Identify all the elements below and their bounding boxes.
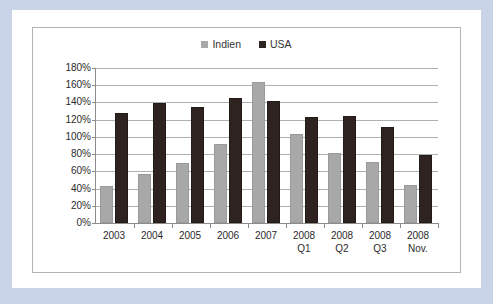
bar-usa: [305, 117, 318, 223]
bar-group: [400, 68, 438, 223]
y-axis-tick-label: 180%: [65, 63, 91, 73]
y-axis-tick-label: 60%: [71, 166, 91, 176]
bar-group: [324, 68, 362, 223]
chart-frame: Indien USA 0%20%40%60%80%100%120%140%160…: [32, 27, 461, 273]
plot-wrapper: 0%20%40%60%80%100%120%140%160%180% 20032…: [33, 28, 462, 274]
y-axis-tick-label: 80%: [71, 149, 91, 159]
x-axis-category-label: 2004: [133, 229, 171, 242]
y-axis-tick-label: 20%: [71, 201, 91, 211]
x-axis-tick-mark: [172, 223, 173, 228]
bar-indien: [214, 144, 227, 223]
page-background: Indien USA 0%20%40%60%80%100%120%140%160…: [0, 0, 493, 304]
bar-usa: [153, 103, 166, 223]
bar-group: [362, 68, 400, 223]
bar-indien: [252, 82, 265, 223]
x-axis-category-label: 2008 Nov.: [399, 229, 437, 255]
bar-usa: [343, 116, 356, 223]
page-surface: Indien USA 0%20%40%60%80%100%120%140%160…: [12, 10, 481, 288]
y-axis-tick-mark: [92, 223, 96, 224]
x-axis-tick-mark: [210, 223, 211, 228]
bar-group: [96, 68, 134, 223]
y-axis-tick-labels: 0%20%40%60%80%100%120%140%160%180%: [49, 68, 91, 223]
bar-group: [172, 68, 210, 223]
x-axis-tick-mark: [400, 223, 401, 228]
bar-usa: [267, 101, 280, 223]
x-axis-tick-mark: [324, 223, 325, 228]
x-axis-category-label: 2008 Q2: [323, 229, 361, 255]
x-axis-category-label: 2003: [95, 229, 133, 242]
bar-group: [248, 68, 286, 223]
y-axis-tick-label: 140%: [65, 97, 91, 107]
bar-indien: [404, 185, 417, 223]
x-axis-category-label: 2005: [171, 229, 209, 242]
bar-usa: [419, 155, 432, 223]
y-axis-tick-label: 100%: [65, 132, 91, 142]
bar-group: [134, 68, 172, 223]
bar-indien: [100, 186, 113, 223]
bar-indien: [290, 134, 303, 223]
plot-area: [95, 68, 438, 224]
bar-indien: [176, 163, 189, 223]
bar-indien: [328, 153, 341, 223]
x-axis-category-label: 2006: [209, 229, 247, 242]
y-axis-tick-label: 0%: [77, 218, 91, 228]
x-axis-tick-mark: [286, 223, 287, 228]
bar-group: [286, 68, 324, 223]
y-axis-tick-label: 40%: [71, 184, 91, 194]
x-axis-category-label: 2008 Q1: [285, 229, 323, 255]
x-axis-tick-mark: [134, 223, 135, 228]
bar-group: [210, 68, 248, 223]
y-axis-tick-label: 120%: [65, 115, 91, 125]
bar-usa: [115, 113, 128, 223]
bar-indien: [366, 162, 379, 223]
x-axis-tick-mark: [438, 223, 439, 228]
y-axis-tick-label: 160%: [65, 80, 91, 90]
bar-indien: [138, 174, 151, 223]
x-axis-tick-mark: [362, 223, 363, 228]
bar-usa: [229, 98, 242, 223]
bar-usa: [381, 127, 394, 223]
x-axis-category-labels: 200320042005200620072008 Q12008 Q22008 Q…: [95, 229, 437, 273]
x-axis-category-label: 2008 Q3: [361, 229, 399, 255]
bar-usa: [191, 107, 204, 223]
x-axis-tick-mark: [248, 223, 249, 228]
x-axis-category-label: 2007: [247, 229, 285, 242]
